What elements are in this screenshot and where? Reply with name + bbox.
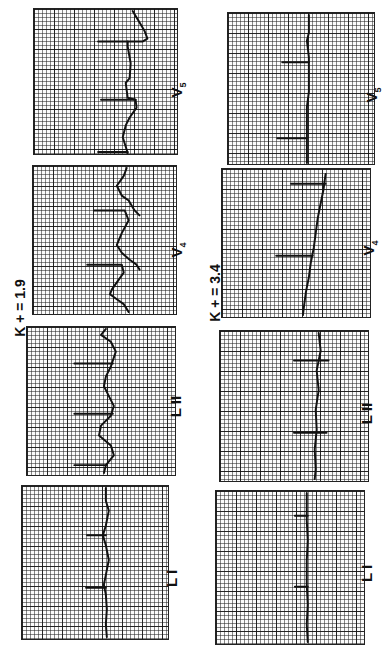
ecg-trace-low-v5 — [34, 9, 177, 154]
ecg-panel-low-lii — [26, 326, 176, 476]
lead-label-normal-lii: L II — [358, 403, 375, 424]
lead-label-low-li: L I — [163, 570, 180, 587]
lead-label-normal-li: L I — [358, 565, 375, 582]
lead-label-low-v5: V5 — [168, 82, 188, 97]
ecg-panel-normal-li — [215, 490, 365, 645]
lead-label-low-v4: V4 — [168, 242, 188, 257]
lead-label-normal-v4: V4 — [360, 240, 380, 255]
ecg-panel-low-li — [21, 485, 169, 640]
ecg-panel-normal-lii — [219, 330, 369, 482]
ecg-trace-normal-li — [216, 491, 364, 644]
ecg-trace-low-li — [22, 486, 168, 639]
ecg-trace-normal-lii — [220, 331, 368, 481]
lead-label-normal-v5: V5 — [363, 87, 383, 102]
ecg-panel-normal-v4 — [221, 168, 371, 318]
ecg-panel-normal-v5 — [227, 12, 375, 165]
ecg-trace-low-lii — [27, 327, 175, 475]
lead-label-low-lii: L II — [167, 396, 184, 417]
ecg-panel-low-v5 — [33, 8, 178, 155]
ecg-trace-normal-v4 — [222, 169, 370, 317]
ecg-panel-low-v4 — [32, 165, 177, 315]
ecg-trace-low-v4 — [33, 166, 176, 314]
ecg-trace-normal-v5 — [228, 13, 374, 164]
